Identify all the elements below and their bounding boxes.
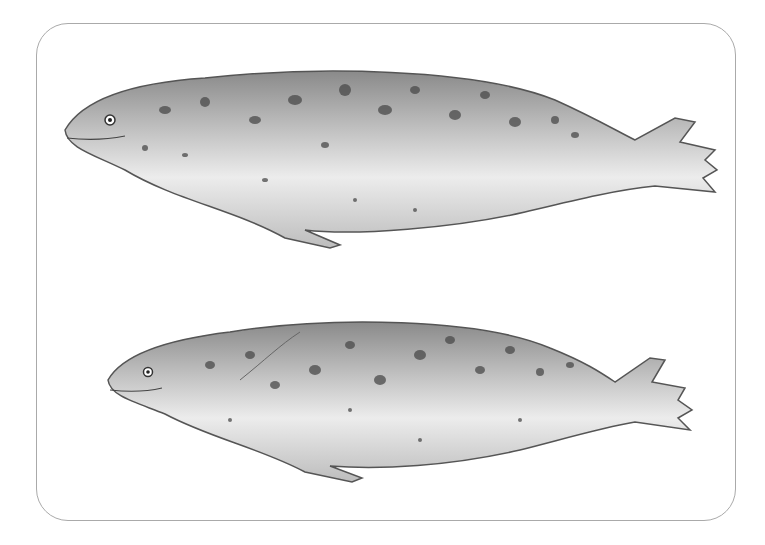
seal-illustration-bottom xyxy=(100,310,700,485)
seal-illustration-top xyxy=(55,60,725,255)
